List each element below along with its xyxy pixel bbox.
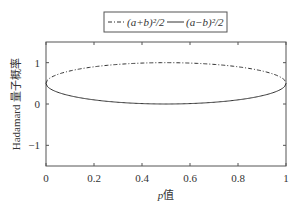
x-tick-label: 0 — [43, 172, 49, 184]
x-tick-label: 0.8 — [231, 172, 245, 184]
chart: (a+b)²/2 (a−b)²/2 00.20.40.60.81 −101 p值… — [0, 0, 302, 211]
series-sum-line — [46, 63, 286, 84]
x-tick-label: 1 — [283, 172, 289, 184]
legend-label-sum: (a+b)²/2 — [127, 16, 165, 29]
legend: (a+b)²/2 (a−b)²/2 — [104, 12, 227, 32]
y-tick-label: 1 — [35, 57, 41, 69]
series-diff-line — [46, 83, 286, 104]
x-tick-label: 0.6 — [183, 172, 197, 184]
x-tick-label: 0.2 — [87, 172, 101, 184]
y-tick-label: 0 — [35, 98, 41, 110]
legend-label-diff: (a−b)²/2 — [186, 16, 224, 29]
x-tick-label: 0.4 — [135, 172, 149, 184]
x-axis-ticks: 00.20.40.60.81 — [43, 42, 289, 184]
y-tick-label: −1 — [28, 139, 40, 151]
x-axis-label: p值 — [157, 189, 175, 201]
y-axis-label: Hadamard 量子概率 — [9, 58, 22, 151]
